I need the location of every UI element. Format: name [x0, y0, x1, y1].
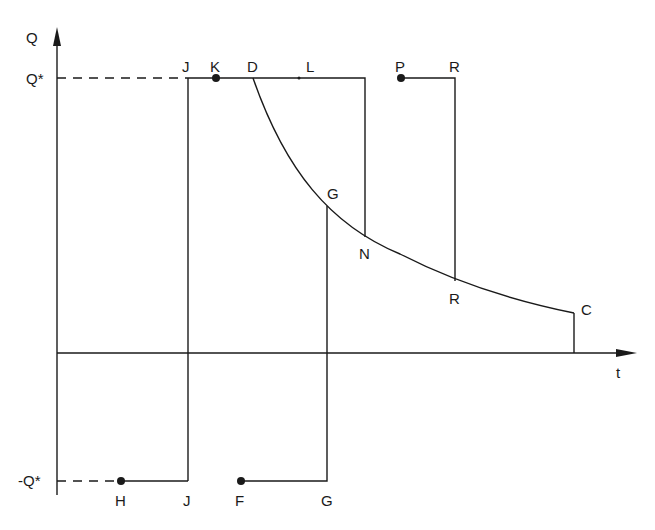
p-to-r-path — [401, 78, 455, 281]
t-axis-label: t — [616, 364, 621, 381]
t-axis-arrow-icon — [616, 349, 637, 357]
label-r-curve: R — [449, 290, 460, 307]
y-axis-arrow-icon — [53, 27, 61, 46]
label-n: N — [359, 245, 370, 262]
label-d: D — [247, 58, 258, 75]
label-f: F — [235, 492, 244, 509]
label-l: L — [306, 58, 314, 75]
top-path-j-to-n — [188, 78, 365, 237]
decay-curve — [253, 78, 574, 313]
label-h: H — [115, 492, 126, 509]
q-star-label: Q* — [26, 70, 44, 87]
point-l-tick — [298, 77, 301, 80]
label-g-bottom: G — [321, 492, 333, 509]
label-c: C — [581, 301, 592, 318]
label-r-top: R — [449, 58, 460, 75]
point-p-dot — [397, 74, 405, 82]
inventory-diagram: Q Q* -Q* t J K D L P R G N R C H J F G — [0, 0, 655, 530]
label-j-bottom: J — [183, 492, 191, 509]
label-j-top: J — [182, 58, 190, 75]
label-k: K — [210, 58, 220, 75]
f-to-g-path — [241, 206, 327, 481]
label-g-curve: G — [327, 185, 339, 202]
point-f-dot — [237, 477, 245, 485]
label-p: P — [395, 58, 405, 75]
point-h-dot — [117, 477, 125, 485]
y-axis-label: Q — [26, 29, 38, 46]
point-k-dot — [212, 74, 220, 82]
neg-q-star-label: -Q* — [18, 472, 41, 489]
